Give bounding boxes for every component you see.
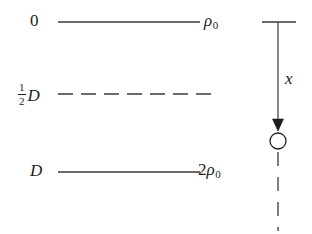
axis-label-x: x (285, 70, 293, 87)
fraction-numerator: 1 (18, 82, 26, 94)
rho-symbol-top: ρ (204, 11, 212, 30)
rho-subscript-bottom: 0 (215, 168, 221, 180)
rho-symbol-bottom: ρ (207, 160, 215, 179)
particle-marker-icon (270, 133, 286, 149)
level-label-middle-left: 12D (18, 82, 40, 107)
level-label-top-left: 0 (30, 12, 39, 29)
level-label-bottom-right: 2ρ0 (198, 161, 221, 180)
axis-arrowhead-icon (273, 119, 284, 131)
fraction-denominator: 2 (18, 96, 26, 108)
depth-symbol-middle: D (28, 86, 40, 105)
density-stratification-figure: 0 ρ0 12D D 2ρ0 x (0, 0, 312, 234)
rho-subscript-top: 0 (213, 19, 219, 31)
figure-vector-layer (0, 0, 312, 234)
rho-coefficient-bottom: 2 (198, 160, 207, 179)
level-label-bottom-left: D (30, 162, 42, 179)
level-label-top-right: ρ0 (204, 12, 218, 31)
one-half-fraction: 12 (18, 82, 26, 107)
